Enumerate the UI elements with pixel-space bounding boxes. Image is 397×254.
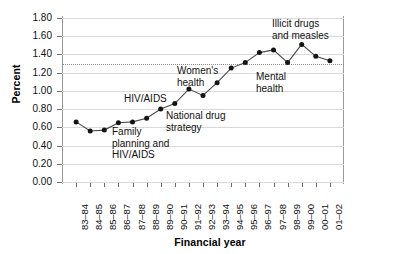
data-point — [88, 129, 93, 134]
chart-figure: Percent Financial year 0.000.200.400.600… — [0, 0, 397, 254]
y-tick-mark — [57, 54, 62, 55]
gridline — [62, 146, 344, 147]
x-tick-label: 91–92 — [193, 204, 203, 230]
x-tick-mark — [330, 183, 331, 187]
x-tick-mark — [231, 183, 232, 187]
data-point — [74, 119, 79, 124]
x-tick-label: 95–96 — [249, 204, 259, 230]
x-tick-mark — [288, 183, 289, 187]
x-tick-mark — [133, 183, 134, 187]
x-tick-mark — [147, 183, 148, 187]
data-point — [116, 120, 121, 125]
x-tick-mark — [118, 183, 119, 187]
x-tick-label: 99–00 — [306, 204, 316, 230]
data-point — [229, 66, 234, 71]
gridline — [62, 91, 344, 92]
x-tick-label: 92–93 — [207, 204, 217, 230]
annotation-womens-health: Women's health — [177, 65, 218, 88]
x-tick-label: 98–99 — [292, 204, 302, 230]
x-tick-mark — [217, 183, 218, 187]
x-tick-mark — [316, 183, 317, 187]
x-tick-label: 97–98 — [278, 204, 288, 230]
x-tick-mark — [90, 183, 91, 187]
data-point — [327, 58, 332, 63]
y-tick-label: 1.40 — [18, 49, 52, 59]
x-tick-mark — [302, 183, 303, 187]
y-tick-label: 1.80 — [18, 13, 52, 23]
y-tick-mark — [57, 91, 62, 92]
y-tick-mark — [57, 18, 62, 19]
y-tick-mark — [57, 127, 62, 128]
x-tick-mark — [259, 183, 260, 187]
data-point — [271, 47, 276, 52]
data-point — [172, 101, 177, 106]
x-axis-title: Financial year — [100, 236, 320, 248]
x-tick-mark — [274, 183, 275, 187]
y-tick-label: 1.00 — [18, 86, 52, 96]
y-tick-mark — [57, 164, 62, 165]
y-tick-mark — [57, 146, 62, 147]
data-point — [130, 119, 135, 124]
x-tick-label: 87–88 — [137, 204, 147, 230]
x-tick-label: 94–95 — [235, 204, 245, 230]
annotation-hiv-aids: HIV/AIDS — [124, 93, 167, 105]
gridline — [62, 54, 344, 55]
x-tick-label: 96–97 — [263, 204, 273, 230]
data-point — [201, 93, 206, 98]
y-axis-line — [62, 16, 63, 184]
x-tick-label: 84–85 — [94, 204, 104, 230]
x-tick-mark — [104, 183, 105, 187]
y-tick-mark — [57, 109, 62, 110]
annotation-national-drug-strategy: National drug strategy — [166, 110, 225, 133]
y-tick-label: 0.60 — [18, 122, 52, 132]
y-tick-label: 0.40 — [18, 141, 52, 151]
annotation-mental-health: Mental health — [256, 71, 286, 94]
gridline — [62, 164, 344, 165]
y-tick-label: 0.20 — [18, 159, 52, 169]
y-tick-label: 1.60 — [18, 31, 52, 41]
x-tick-mark — [189, 183, 190, 187]
y-tick-mark — [57, 182, 62, 183]
x-tick-mark — [161, 183, 162, 187]
y-tick-label: 1.20 — [18, 68, 52, 78]
x-tick-mark — [245, 183, 246, 187]
x-tick-label: 93–94 — [221, 204, 231, 230]
x-tick-label: 90–91 — [179, 204, 189, 230]
x-tick-mark — [76, 183, 77, 187]
x-tick-mark — [175, 183, 176, 187]
y-tick-label: 0.80 — [18, 104, 52, 114]
x-tick-label: 01–02 — [334, 204, 344, 230]
data-point — [144, 116, 149, 121]
plot-right-border — [343, 16, 344, 184]
x-tick-label: 89–90 — [165, 204, 175, 230]
x-tick-label: 88–89 — [151, 204, 161, 230]
data-point — [299, 42, 304, 47]
annotation-family-planning: Family planning and HIV/AIDS — [112, 126, 169, 161]
x-tick-label: 00–01 — [320, 204, 330, 230]
y-tick-mark — [57, 73, 62, 74]
y-tick-label: 0.00 — [18, 177, 52, 187]
x-tick-label: 86–87 — [122, 204, 132, 230]
y-tick-mark — [57, 36, 62, 37]
x-tick-mark — [203, 183, 204, 187]
x-tick-label: 83–84 — [80, 204, 90, 230]
data-point — [102, 128, 107, 133]
annotation-illicit-drugs: Illicit drugs and measles — [272, 18, 329, 41]
x-tick-label: 85–86 — [108, 204, 118, 230]
